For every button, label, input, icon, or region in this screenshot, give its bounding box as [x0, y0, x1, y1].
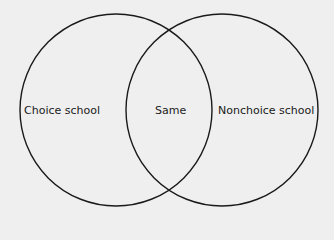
intersection-label: Same — [155, 104, 186, 117]
nonchoice-school-label: Nonchoice school — [218, 104, 314, 117]
choice-school-label: Choice school — [24, 104, 100, 117]
